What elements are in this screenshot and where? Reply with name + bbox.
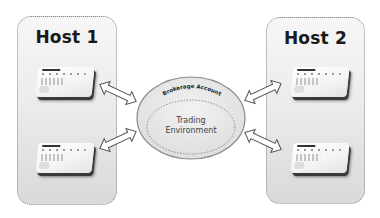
arrow-host2-device1-icon bbox=[242, 77, 284, 107]
trading-environment-label: Trading Environment bbox=[150, 116, 232, 136]
arrow-host1-device2-icon bbox=[97, 125, 139, 155]
arrow-host1-device1-icon bbox=[97, 78, 139, 108]
trading-environment-line2: Environment bbox=[150, 126, 232, 136]
trading-environment-line1: Trading bbox=[150, 116, 232, 126]
arrow-host2-device2-icon bbox=[242, 126, 284, 156]
diagram-overlay: Brokerage Account bbox=[0, 0, 380, 218]
